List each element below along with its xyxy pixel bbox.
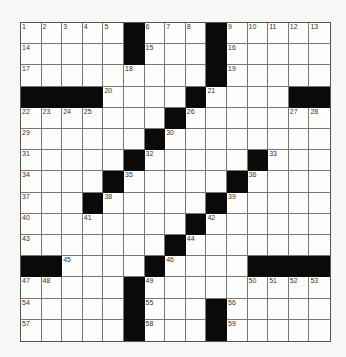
grid-cell[interactable]: 35: [124, 171, 145, 192]
grid-cell[interactable]: [165, 214, 186, 235]
grid-cell[interactable]: 56: [227, 299, 248, 320]
grid-cell[interactable]: [309, 171, 330, 192]
grid-cell[interactable]: [289, 235, 310, 256]
grid-cell[interactable]: 53: [309, 277, 330, 298]
grid-cell[interactable]: 37: [21, 193, 42, 214]
grid-cell[interactable]: [248, 299, 269, 320]
grid-cell[interactable]: [124, 214, 145, 235]
grid-cell[interactable]: 16: [227, 44, 248, 65]
grid-cell[interactable]: [42, 193, 63, 214]
grid-cell[interactable]: [165, 277, 186, 298]
grid-cell[interactable]: 45: [62, 256, 83, 277]
grid-cell[interactable]: 9: [227, 23, 248, 44]
grid-cell[interactable]: [289, 65, 310, 86]
grid-cell[interactable]: 23: [42, 108, 63, 129]
grid-cell[interactable]: [309, 65, 330, 86]
grid-cell[interactable]: [268, 108, 289, 129]
grid-cell[interactable]: 48: [42, 277, 63, 298]
grid-cell[interactable]: [124, 87, 145, 108]
grid-cell[interactable]: [83, 150, 104, 171]
grid-cell[interactable]: [206, 108, 227, 129]
grid-cell[interactable]: [289, 299, 310, 320]
grid-cell[interactable]: 44: [186, 235, 207, 256]
grid-cell[interactable]: 32: [145, 150, 166, 171]
grid-cell[interactable]: [186, 256, 207, 277]
grid-cell[interactable]: [227, 129, 248, 150]
grid-cell[interactable]: [83, 171, 104, 192]
grid-cell[interactable]: [42, 44, 63, 65]
grid-cell[interactable]: [186, 299, 207, 320]
grid-cell[interactable]: [309, 44, 330, 65]
grid-cell[interactable]: [248, 108, 269, 129]
grid-cell[interactable]: [83, 44, 104, 65]
grid-cell[interactable]: [103, 277, 124, 298]
grid-cell[interactable]: [248, 320, 269, 341]
grid-cell[interactable]: [227, 87, 248, 108]
grid-cell[interactable]: 21: [206, 87, 227, 108]
grid-cell[interactable]: [289, 320, 310, 341]
grid-cell[interactable]: 38: [103, 193, 124, 214]
grid-cell[interactable]: 15: [145, 44, 166, 65]
grid-cell[interactable]: [42, 150, 63, 171]
grid-cell[interactable]: [145, 171, 166, 192]
grid-cell[interactable]: 36: [248, 171, 269, 192]
grid-cell[interactable]: [268, 320, 289, 341]
grid-cell[interactable]: [248, 65, 269, 86]
grid-cell[interactable]: 28: [309, 108, 330, 129]
grid-cell[interactable]: [227, 214, 248, 235]
grid-cell[interactable]: [248, 129, 269, 150]
grid-cell[interactable]: [62, 65, 83, 86]
grid-cell[interactable]: [124, 256, 145, 277]
grid-cell[interactable]: 52: [289, 277, 310, 298]
grid-cell[interactable]: [165, 65, 186, 86]
grid-cell[interactable]: 51: [268, 277, 289, 298]
grid-cell[interactable]: [206, 256, 227, 277]
grid-cell[interactable]: [206, 129, 227, 150]
grid-cell[interactable]: [42, 235, 63, 256]
grid-cell[interactable]: 6: [145, 23, 166, 44]
grid-cell[interactable]: [124, 129, 145, 150]
grid-cell[interactable]: [103, 214, 124, 235]
grid-cell[interactable]: 30: [165, 129, 186, 150]
grid-cell[interactable]: [206, 150, 227, 171]
grid-cell[interactable]: [103, 65, 124, 86]
grid-cell[interactable]: [124, 235, 145, 256]
grid-cell[interactable]: [186, 193, 207, 214]
grid-cell[interactable]: [227, 277, 248, 298]
grid-cell[interactable]: [165, 299, 186, 320]
grid-cell[interactable]: [206, 235, 227, 256]
grid-cell[interactable]: [145, 214, 166, 235]
grid-cell[interactable]: [206, 277, 227, 298]
grid-cell[interactable]: [124, 193, 145, 214]
grid-cell[interactable]: [309, 193, 330, 214]
grid-cell[interactable]: [42, 65, 63, 86]
grid-cell[interactable]: [103, 256, 124, 277]
grid-cell[interactable]: 4: [83, 23, 104, 44]
grid-cell[interactable]: [62, 277, 83, 298]
grid-cell[interactable]: [309, 320, 330, 341]
grid-cell[interactable]: 12: [289, 23, 310, 44]
grid-cell[interactable]: [103, 299, 124, 320]
grid-cell[interactable]: [83, 299, 104, 320]
grid-cell[interactable]: [268, 65, 289, 86]
grid-cell[interactable]: [165, 150, 186, 171]
grid-cell[interactable]: [309, 150, 330, 171]
grid-cell[interactable]: [165, 44, 186, 65]
grid-cell[interactable]: [268, 299, 289, 320]
grid-cell[interactable]: 49: [145, 277, 166, 298]
grid-cell[interactable]: [248, 235, 269, 256]
grid-cell[interactable]: 40: [21, 214, 42, 235]
grid-cell[interactable]: 43: [21, 235, 42, 256]
grid-cell[interactable]: [289, 193, 310, 214]
grid-cell[interactable]: 19: [227, 65, 248, 86]
grid-cell[interactable]: [289, 171, 310, 192]
grid-cell[interactable]: [268, 235, 289, 256]
grid-cell[interactable]: [309, 129, 330, 150]
grid-cell[interactable]: 11: [268, 23, 289, 44]
grid-cell[interactable]: [186, 277, 207, 298]
grid-cell[interactable]: 58: [145, 320, 166, 341]
grid-cell[interactable]: [42, 171, 63, 192]
grid-cell[interactable]: 5: [103, 23, 124, 44]
grid-cell[interactable]: [83, 235, 104, 256]
grid-cell[interactable]: [248, 44, 269, 65]
